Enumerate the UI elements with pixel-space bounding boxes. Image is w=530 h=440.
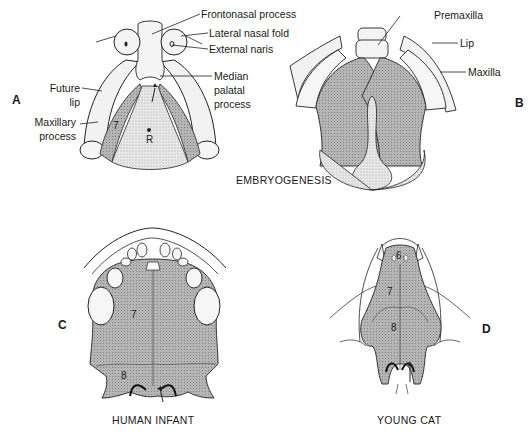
panel-a-embryo-illustration [80,14,219,170]
panel-letter-d: D [482,322,491,336]
number-7-d: 7 [387,286,393,297]
panel-letter-a: A [12,93,21,107]
caption-embryogenesis: EMBRYOGENESIS [236,174,332,186]
letter-r-a: R [146,134,153,145]
number-7-a: 7 [113,120,119,131]
label-premaxilla: Premaxilla [434,9,483,21]
panel-letter-b: B [515,96,524,110]
label-maxillary-2: process [20,130,76,142]
label-median-palatal-1: Median [214,70,248,82]
label-lateral-nasal-fold: Lateral nasal fold [209,27,289,39]
caption-human-infant: HUMAN INFANT [112,414,194,426]
label-maxillary-1: Maxillary [20,116,76,128]
label-external-naris: External naris [209,43,273,55]
panel-d-young-cat-palate [330,239,470,395]
label-median-palatal-3: process [214,98,251,110]
label-future-lip-2: lip [40,96,80,108]
label-median-palatal-2: palatal [214,84,245,96]
palate-illustrations [0,0,530,440]
label-lip: Lip [460,37,474,49]
number-6-d: 6 [396,250,402,261]
number-8-c: 8 [121,370,127,381]
caption-young-cat: YOUNG CAT [377,414,441,426]
label-frontonasal-process: Frontonasal process [201,8,296,20]
number-7-c: 7 [131,309,137,320]
panel-b-embryo-illustration [290,16,466,190]
label-future-lip-1: Future [40,82,80,94]
number-8-d: 8 [391,322,397,333]
label-maxilla: Maxilla [468,66,501,78]
panel-letter-c: C [58,318,67,332]
panel-c-human-infant-palate [84,228,226,402]
